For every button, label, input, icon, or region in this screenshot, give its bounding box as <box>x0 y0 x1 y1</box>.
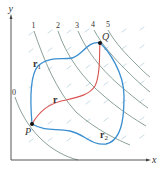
path-r-label: r <box>53 94 58 105</box>
level-label-3: 3 <box>75 21 79 30</box>
level-curve-1 <box>34 31 130 145</box>
point-q-label: Q <box>102 31 110 42</box>
level-label-1: 1 <box>32 21 36 30</box>
path-r1-label: r1 <box>33 58 41 71</box>
level-curve-3 <box>78 31 148 108</box>
level-label-0: 0 <box>12 88 16 97</box>
y-axis-arrow-icon <box>10 14 13 19</box>
point-p-label: P <box>24 126 31 137</box>
level-label-4: 4 <box>91 20 95 29</box>
path-r2-label: r2 <box>100 129 108 142</box>
x-axis-label: x <box>151 154 157 165</box>
y-axis-label: y <box>8 3 14 14</box>
vector-field <box>29 27 144 142</box>
level-label-5: 5 <box>106 20 110 29</box>
level-curve-5 <box>108 30 150 77</box>
path-r2 <box>32 43 124 144</box>
path-independence-diagram: y x 0 1 2 3 4 5 P Q r1 r r2 <box>0 0 163 171</box>
level-label-2: 2 <box>56 21 60 30</box>
x-axis-arrow-icon <box>146 159 151 162</box>
